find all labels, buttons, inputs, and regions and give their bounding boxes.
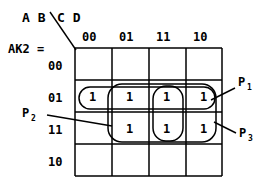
- row-header-1: 01: [48, 91, 62, 105]
- row-header-2: 11: [48, 123, 62, 137]
- cell-r11-c10: 1: [200, 122, 207, 136]
- row-header-3: 10: [48, 155, 62, 169]
- row-header-0: 00: [48, 59, 62, 73]
- top-variables-label: C D: [57, 10, 81, 25]
- column-header-1: 01: [119, 30, 133, 44]
- column-header-2: 11: [156, 30, 170, 44]
- cell-r01-c01: 1: [126, 90, 133, 104]
- side-variables-label: A B: [22, 10, 46, 25]
- kmap-grid: [75, 48, 222, 176]
- cell-r01-c10: 1: [200, 90, 207, 104]
- group-label-p2-subscript: 2: [31, 114, 36, 123]
- group-label-p2: P 2: [22, 106, 36, 123]
- karnaugh-map-diagram: A B C D AK2 = 00 01 11 10 00 01 11 10: [0, 0, 269, 186]
- group-label-p3-text: P: [239, 126, 246, 140]
- group-label-p1-text: P: [238, 75, 245, 89]
- group-label-p2-text: P: [22, 106, 29, 120]
- group-label-p3: P 3: [239, 126, 253, 143]
- group-loop-p1: [79, 87, 215, 109]
- leader-line-p3: [214, 122, 236, 133]
- column-header-3: 10: [193, 30, 207, 44]
- column-header-0: 00: [82, 30, 96, 44]
- function-label: AK2 =: [8, 42, 44, 56]
- cell-r11-c01: 1: [126, 122, 133, 136]
- group-label-p1: P 1: [238, 75, 252, 92]
- cell-r11-c11: 1: [163, 122, 170, 136]
- cell-r01-c11: 1: [163, 90, 170, 104]
- group-label-p3-subscript: 3: [248, 134, 253, 143]
- group-label-p1-subscript: 1: [247, 83, 252, 92]
- cell-r01-c00: 1: [89, 90, 96, 104]
